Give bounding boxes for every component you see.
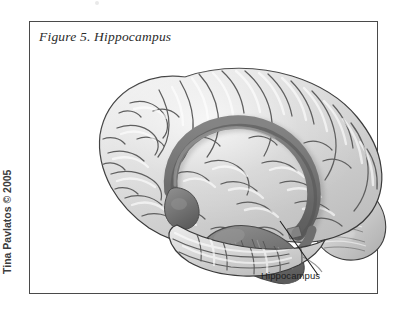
figure-page: Tina Pavlatos © 2005 Figure 5. Hippocamp… xyxy=(0,0,397,314)
figure-frame: Figure 5. Hippocampus xyxy=(29,21,378,294)
hippocampus-label: Hippocampus xyxy=(261,270,320,281)
copyright-credit: Tina Pavlatos © 2005 xyxy=(1,154,13,274)
cerebral-cortex-structure xyxy=(99,68,381,247)
brain-illustration xyxy=(59,43,397,314)
scan-artifact-speck xyxy=(95,1,99,5)
